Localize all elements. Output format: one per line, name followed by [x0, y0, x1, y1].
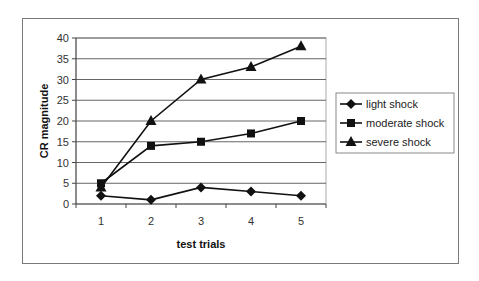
- y-tick-label: 20: [57, 115, 69, 127]
- square-marker: [197, 138, 205, 146]
- y-axis-title: CR magnitude: [38, 84, 50, 159]
- x-tick-label: 5: [298, 215, 304, 227]
- line-chart: 0510152025303540 12345 CR magnitude test…: [0, 0, 479, 281]
- x-tick-label: 4: [248, 215, 254, 227]
- square-marker: [297, 117, 305, 125]
- legend-label: severe shock: [366, 136, 431, 148]
- gridlines: [76, 38, 326, 204]
- legend: light shockmoderate shocksevere shock: [336, 93, 454, 153]
- x-axis-title: test trials: [177, 238, 226, 250]
- square-marker: [347, 119, 355, 127]
- x-tick-label: 3: [198, 215, 204, 227]
- y-tick-label: 40: [57, 32, 69, 44]
- legend-label: light shock: [366, 98, 418, 110]
- x-tick-labels: 12345: [98, 215, 304, 227]
- y-tick-label: 10: [57, 157, 69, 169]
- square-marker: [247, 129, 255, 137]
- x-tick-label: 2: [148, 215, 154, 227]
- square-marker: [147, 142, 155, 150]
- y-tick-label: 35: [57, 53, 69, 65]
- legend-label: moderate shock: [366, 117, 445, 129]
- y-tick-label: 30: [57, 74, 69, 86]
- x-tick-label: 1: [98, 215, 104, 227]
- legend-item: light shock: [340, 98, 418, 110]
- y-tick-label: 5: [63, 177, 69, 189]
- y-tick-label: 25: [57, 94, 69, 106]
- y-tick-labels: 0510152025303540: [57, 32, 69, 210]
- y-tick-label: 0: [63, 198, 69, 210]
- y-tick-label: 15: [57, 136, 69, 148]
